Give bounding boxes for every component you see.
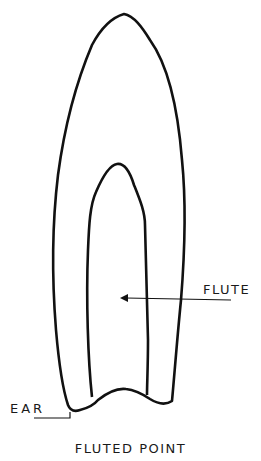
flute-outline (87, 164, 148, 397)
fluted-point-drawing (0, 0, 261, 461)
point-outline (53, 14, 184, 411)
flute-pointer-line (126, 298, 231, 300)
flute-label: FLUTE (203, 282, 250, 297)
ear-label: EAR (10, 401, 45, 416)
flute-arrowhead-icon (120, 294, 128, 302)
diagram-caption: FLUTED POINT (0, 441, 261, 456)
